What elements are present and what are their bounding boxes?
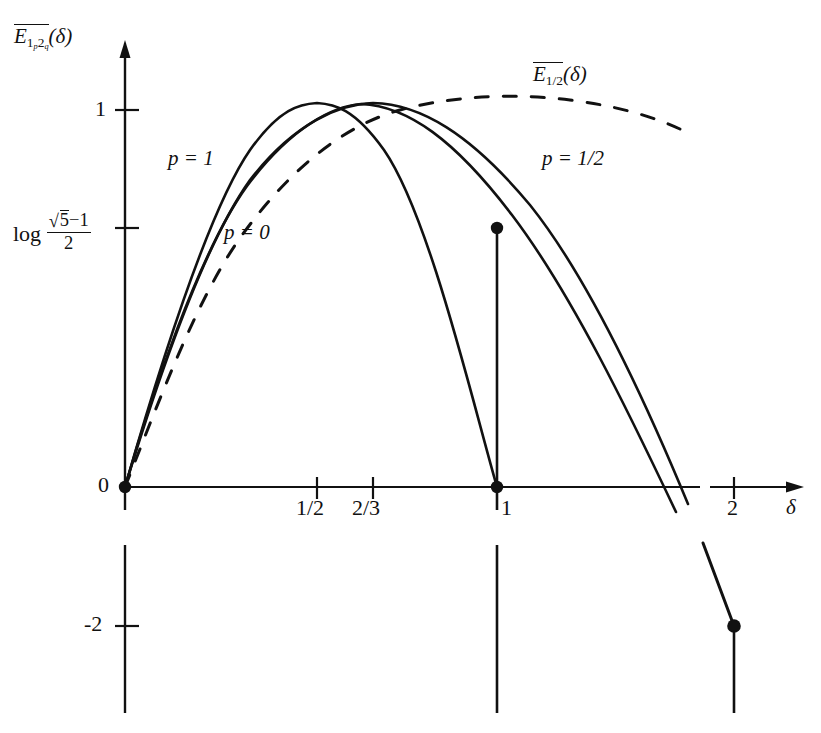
curve-label-p-equals-0: p = 0: [224, 222, 270, 243]
plot-canvas: [0, 0, 821, 733]
x-axis-arrowhead: [786, 482, 804, 493]
x-tick-label-half: 1/2: [296, 497, 324, 519]
y-tick-label-log-golden: log √5−1 2: [13, 210, 91, 254]
curve-branch-to-minus-two: [703, 543, 734, 626]
E-bar-label-E: E: [533, 62, 546, 86]
x-tick-label-two: 2: [727, 497, 738, 519]
y-axis-label-sub-1: 1: [27, 35, 34, 50]
log-prefix: log: [13, 221, 41, 246]
y-axis-label: E1p2q(δ): [14, 24, 72, 51]
y-axis-label-arg: (δ): [49, 24, 73, 48]
y-axis-label-E: E: [14, 24, 27, 48]
x-tick-label-two-thirds: 2/3: [352, 497, 380, 519]
x-tick-label-one: 1: [501, 497, 512, 519]
x-axis-label-delta: δ: [786, 497, 796, 518]
curve-label-p-equals-1: p = 1: [168, 148, 214, 169]
curve-label-E-bar-one-half: E1/2(δ): [533, 62, 587, 87]
dot-at-two-minus-two: [727, 619, 741, 633]
y-tick-label-one: 1: [95, 98, 106, 120]
dot-at-one-top: [491, 222, 503, 234]
golden-fraction: √5−1 2: [47, 210, 91, 254]
y-tick-label-minus-two: -2: [84, 613, 102, 635]
y-axis-arrowhead: [120, 40, 131, 58]
math-figure: E1p2q(δ) 1 log √5−1 2 0 -2 1/2 2/3 1 2 δ…: [0, 0, 821, 733]
numerator-rest: −1: [69, 210, 89, 230]
dot-at-one-on-axis: [491, 481, 503, 493]
E-bar-label-sub: 1/2: [546, 73, 563, 88]
radicand: 5: [60, 210, 69, 231]
fraction-denominator: 2: [47, 233, 91, 254]
radical-sign: √: [49, 212, 59, 232]
origin-dot: [119, 481, 131, 493]
E-bar-label-arg: (δ): [563, 62, 587, 86]
curve-label-p-equals-one-half: p = 1/2: [542, 148, 604, 169]
y-tick-label-zero: 0: [98, 474, 109, 496]
